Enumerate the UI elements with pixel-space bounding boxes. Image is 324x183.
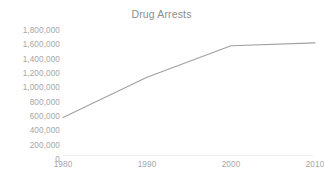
- x-tick-label: 2010: [306, 160, 324, 169]
- y-tick-label: 1,000,000: [23, 83, 60, 92]
- x-tick-label: 1990: [138, 160, 157, 169]
- y-tick-label: 200,000: [30, 140, 60, 149]
- y-axis: 1,800,0001,600,0001,400,0001,200,0001,00…: [8, 30, 60, 159]
- chart-title: Drug Arrests: [0, 8, 323, 20]
- y-tick-label: 800,000: [30, 97, 60, 106]
- x-axis: 1980199020002010: [63, 160, 315, 176]
- series-line-drug-arrests: [63, 43, 315, 118]
- y-tick-label: 1,600,000: [23, 40, 60, 49]
- y-tick-label: 1,800,000: [23, 26, 60, 35]
- x-tick-label: 1980: [54, 160, 73, 169]
- x-tick-label: 2000: [222, 160, 241, 169]
- y-tick-label: 400,000: [30, 126, 60, 135]
- series-drug-arrests: [63, 30, 315, 159]
- y-tick-label: 600,000: [30, 112, 60, 121]
- plot-area: [63, 30, 315, 159]
- y-tick-label: 1,200,000: [23, 69, 60, 78]
- y-tick-label: 1,400,000: [23, 54, 60, 63]
